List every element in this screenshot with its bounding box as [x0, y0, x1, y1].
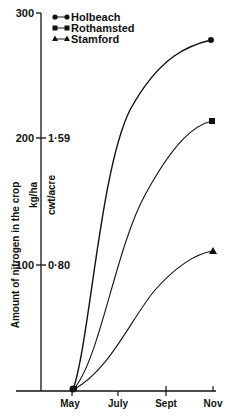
x-label-nov: Nov: [204, 398, 223, 409]
nitrogen-chart: 300 200 100 1·59 0·80 Amount of nitrogen…: [0, 0, 235, 420]
x-label-july: July: [108, 398, 128, 409]
holbeach-end-marker: [208, 37, 214, 43]
y-tick-200: 200: [16, 132, 34, 144]
y-unit-primary: kg/ha: [28, 182, 39, 209]
y-unit-secondary: cwt/acre: [46, 175, 57, 215]
rothamsted-end-marker: [209, 118, 215, 124]
y2-tick-080: 0·80: [48, 259, 70, 271]
x-label-sept: Sept: [155, 398, 177, 409]
y-tick-300: 300: [16, 7, 34, 19]
legend: Holbeach Rothamsted Stamford: [52, 11, 135, 45]
y-axis-label: Amount of nitrogen in the crop: [10, 182, 21, 329]
series-rothamsted-line: [73, 121, 212, 390]
x-label-may: May: [60, 398, 80, 409]
legend-stamford: Stamford: [71, 33, 119, 45]
y2-tick-159: 1·59: [48, 132, 70, 144]
stamford-end-marker: [209, 247, 217, 254]
series-holbeach-line: [73, 40, 211, 390]
